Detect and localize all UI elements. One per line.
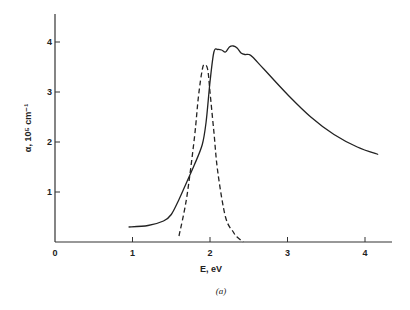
x-tick-label: 4 <box>362 248 367 258</box>
y-tick-label: 1 <box>47 187 52 197</box>
x-origin-label: 0 <box>52 248 57 258</box>
y-tick-label: 4 <box>47 37 52 47</box>
y-tick-label: 3 <box>47 87 52 97</box>
y-axis-title: α, 10⁵ cm⁻¹ <box>23 104 33 152</box>
axes <box>55 14 392 242</box>
x-axis-title: E, eV <box>200 264 222 274</box>
y-tick-label: 2 <box>47 137 52 147</box>
x-tick-label: 1 <box>130 248 135 258</box>
absorption-chart: 12341234 0 E, eV (a) α, 10⁵ cm⁻¹ <box>0 0 410 310</box>
x-tick-label: 2 <box>207 248 212 258</box>
solid-curve <box>129 46 379 227</box>
x-tick-label: 3 <box>285 248 290 258</box>
plot-area <box>129 46 379 242</box>
dashed-curve <box>179 64 243 242</box>
figure-caption: (a) <box>216 286 227 296</box>
ticks: 12341234 <box>47 37 368 258</box>
